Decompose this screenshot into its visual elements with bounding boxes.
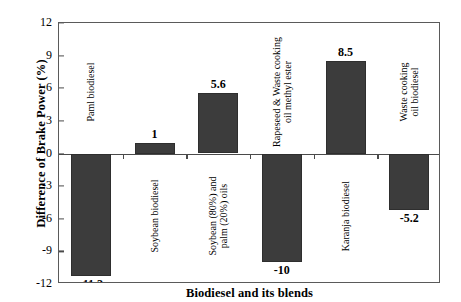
bar [262, 154, 302, 263]
y-tick-label: 12 [0, 15, 52, 30]
x-tick-mark [123, 154, 124, 159]
y-tick-label: -3 [0, 178, 52, 193]
y-tick-mark [59, 251, 64, 252]
category-label: Rapeseed & Waste cooking oil methyl este… [271, 37, 293, 147]
category-label: Karanja biodiesel [340, 180, 351, 250]
bar [71, 154, 111, 277]
y-tick-mark [59, 186, 64, 187]
y-tick-label: -9 [0, 243, 52, 258]
category-label: Soybean (80%) and palm (20%) oils [207, 176, 229, 255]
bar-chart-figure: Difference of Brake Power (%) -11.315.6-… [0, 0, 461, 302]
plot-area: -11.315.6-108.5-5.2 Paml biodieselSoybea… [58, 22, 440, 283]
y-tick-mark [59, 55, 64, 56]
y-tick-mark [59, 120, 64, 121]
y-tick-label: 6 [0, 80, 52, 95]
y-tick-mark [59, 22, 64, 23]
y-tick-mark [59, 218, 64, 219]
bar-value-label: -10 [274, 263, 290, 278]
x-axis-title: Biodiesel and its blends [58, 286, 441, 301]
bar-value-label: 5.6 [211, 77, 226, 92]
bar [389, 154, 429, 211]
category-label: Paml biodiesel [85, 62, 96, 121]
bar-value-label: 1 [152, 127, 158, 142]
y-tick-mark [59, 153, 64, 154]
y-tick-label: 9 [0, 47, 52, 62]
bar [326, 61, 366, 153]
bar [135, 143, 175, 154]
bar-value-label: -5.2 [400, 211, 419, 226]
y-tick-label: 3 [0, 112, 52, 127]
category-label: Soybean biodiesel [149, 179, 160, 252]
y-tick-label: -12 [0, 276, 52, 291]
bar-value-label: -11.3 [79, 277, 103, 283]
y-tick-mark [59, 88, 64, 89]
category-label: Waste cooking oil biodiesel [398, 62, 420, 121]
bar [198, 93, 238, 154]
y-tick-label: 0 [0, 145, 52, 160]
zero-baseline [59, 154, 439, 155]
x-tick-mark [377, 154, 378, 159]
bar-value-label: 8.5 [338, 45, 353, 60]
x-tick-mark [314, 154, 315, 159]
x-tick-mark [250, 154, 251, 159]
y-tick-label: -6 [0, 210, 52, 225]
x-tick-mark [186, 154, 187, 159]
